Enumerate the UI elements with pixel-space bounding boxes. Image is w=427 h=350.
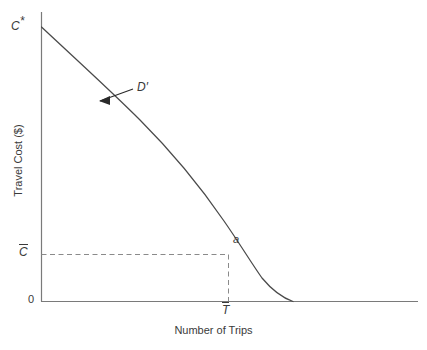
point-a-label: a: [233, 234, 239, 245]
c-bar-base: C: [19, 246, 28, 258]
c-star-axis-label: C*: [11, 20, 24, 32]
c-star-base: C: [11, 19, 20, 33]
t-bar-axis-label: T: [222, 304, 229, 316]
x-axis-title: Number of Trips: [0, 325, 427, 336]
origin-label: 0: [28, 294, 34, 305]
demand-curve: [42, 27, 294, 302]
c-star-mark: *: [20, 14, 25, 28]
c-bar-axis-label: C: [19, 246, 28, 258]
t-bar-base: T: [222, 304, 229, 316]
demand-curve-label: D′: [137, 81, 148, 93]
y-axis-title: Travel Cost ($): [13, 101, 24, 221]
demand-curve-prime: ′: [146, 80, 148, 94]
travel-cost-demand-figure: C* C 0 T a D′ Number of Trips Travel Cos…: [0, 0, 427, 350]
demand-curve-base: D: [137, 80, 146, 94]
plot-canvas: [0, 0, 427, 350]
